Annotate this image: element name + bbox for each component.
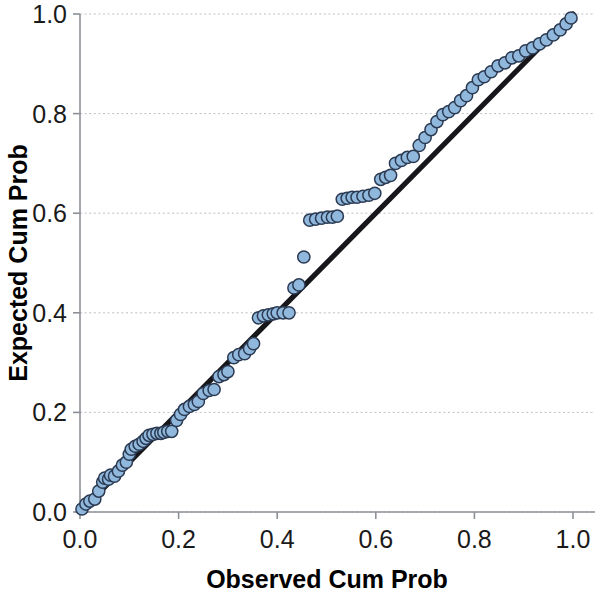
x-axis-title: Observed Cum Prob: [206, 565, 448, 593]
data-point: [208, 383, 220, 395]
y-tick-label: 0.4: [32, 299, 67, 327]
data-point: [293, 279, 305, 291]
x-tick-label: 0.6: [358, 525, 393, 553]
normal-pp-plot-figure: 0.00.20.40.60.81.0 0.00.20.40.60.81.0 Ex…: [0, 0, 595, 601]
data-point: [384, 169, 396, 181]
y-tick-label: 1.0: [32, 0, 67, 28]
x-tick-label: 0.4: [260, 525, 295, 553]
y-tick-label: 0.6: [32, 199, 67, 227]
data-point: [331, 210, 343, 222]
data-point: [407, 150, 419, 162]
data-point: [565, 12, 577, 24]
plot-canvas: 0.00.20.40.60.81.0 0.00.20.40.60.81.0 Ex…: [0, 0, 595, 601]
x-tick-label: 0.0: [63, 525, 98, 553]
data-point: [247, 338, 259, 350]
data-point: [369, 187, 381, 199]
y-tick-label: 0.8: [32, 100, 67, 128]
y-tick-label: 0.2: [32, 398, 67, 426]
x-tick-label: 0.8: [457, 525, 492, 553]
x-tick-label: 1.0: [556, 525, 591, 553]
y-tick-label: 0.0: [32, 498, 67, 526]
data-point: [222, 365, 234, 377]
data-point: [298, 251, 310, 263]
data-point: [283, 307, 295, 319]
x-tick-label: 0.2: [161, 525, 196, 553]
y-axis-tick-labels: 0.00.20.40.60.81.0: [32, 0, 67, 526]
y-axis-title: Expected Cum Prob: [4, 144, 32, 382]
x-axis-tick-labels: 0.00.20.40.60.81.0: [63, 525, 591, 553]
